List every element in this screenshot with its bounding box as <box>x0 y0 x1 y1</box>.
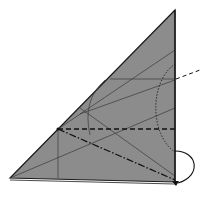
diagram-canvas <box>0 0 201 197</box>
turn-over-loop-arrow <box>175 151 194 183</box>
left-point-marker <box>57 128 60 131</box>
extension-dashed-line <box>176 70 200 79</box>
fold-diagram <box>0 0 201 197</box>
corner-point-marker <box>172 181 179 186</box>
